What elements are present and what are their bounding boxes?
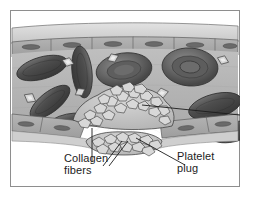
label-collagen-fibers: Collagen fibers bbox=[64, 152, 108, 176]
label-platelet-plug: Platelet plug bbox=[177, 150, 215, 174]
figure-root: Collagen fibers Platelet plug bbox=[0, 0, 258, 197]
